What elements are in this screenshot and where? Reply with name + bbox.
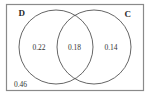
region-d-only: 0.22 — [32, 43, 45, 52]
venn-diagram: D C 0.22 0.18 0.14 0.46 — [0, 0, 147, 97]
region-neither: 0.46 — [14, 80, 27, 89]
set-label-d: D — [19, 8, 26, 18]
region-c-only: 0.14 — [104, 43, 117, 52]
set-label-c: C — [125, 9, 132, 19]
region-intersection: 0.18 — [68, 43, 81, 52]
